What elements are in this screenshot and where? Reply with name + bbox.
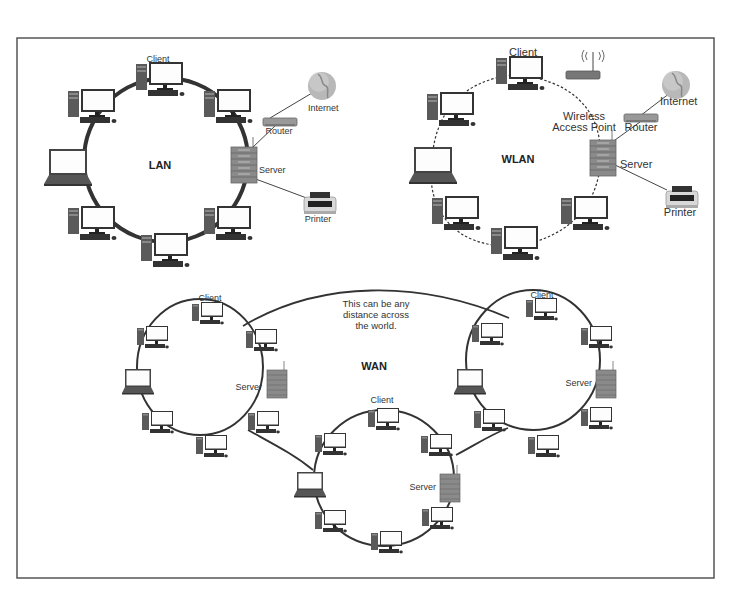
router-icon	[263, 118, 297, 126]
lan-router-label: Router	[265, 126, 292, 136]
wan-right-client-label: Client	[530, 290, 554, 300]
lan-title: LAN	[149, 159, 172, 171]
wan-bottom-server-label: Server	[409, 482, 436, 492]
laptop-icon	[409, 147, 457, 184]
lan-client-label: Client	[146, 54, 170, 64]
laptop-icon	[454, 369, 486, 395]
wlan-router-label: Router	[624, 121, 657, 133]
wan-left-client-label: Client	[198, 293, 222, 303]
wlan-title: WLAN	[502, 153, 535, 165]
lan-printer-label: Printer	[305, 214, 332, 224]
laptop-icon	[294, 472, 326, 498]
laptop-icon	[44, 149, 92, 186]
lan-server-label: Server	[259, 165, 286, 175]
wan-left-server-label: Server	[235, 382, 262, 392]
wan-note-line1: This can be any	[342, 298, 409, 309]
wan-note-line2: distance across	[343, 309, 409, 320]
wlan-wap-label-line2: Access Point	[552, 121, 616, 133]
wan-title: WAN	[361, 360, 387, 372]
laptop-icon	[122, 369, 154, 395]
wan-note-line3: the world.	[355, 320, 396, 331]
wan-right-server-label: Server	[565, 378, 592, 388]
wlan-client-label: Client	[509, 46, 537, 58]
lan-internet-label: Internet	[308, 103, 339, 113]
wlan-server-label: Server	[620, 158, 653, 170]
wlan-printer-label: Printer	[664, 206, 697, 218]
globe-icon	[308, 72, 336, 100]
network-diagram: Client LAN Server Router Internet Printe…	[0, 0, 747, 601]
wlan-internet-label: Internet	[660, 95, 697, 107]
wan-bottom-client-label: Client	[370, 395, 394, 405]
